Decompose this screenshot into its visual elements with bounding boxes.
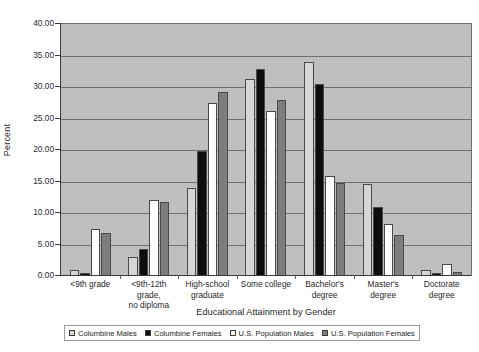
y-axis-title: Percent [2, 100, 12, 180]
bar-chart: Percent 0.005.0010.0015.0020.0025.0030.0… [0, 0, 479, 352]
bar [208, 103, 218, 276]
bar [91, 229, 101, 276]
bar [373, 207, 383, 276]
y-tick-mark [55, 23, 60, 24]
bar [245, 79, 255, 276]
legend-swatch-icon [322, 330, 328, 336]
bar [128, 257, 138, 276]
y-tick-label: 0.00 [18, 270, 54, 280]
bar-group [354, 24, 413, 276]
y-tick-mark [55, 244, 60, 245]
bar [384, 224, 394, 276]
legend-label: Columbine Females [154, 329, 222, 338]
y-tick-label: 25.00 [18, 113, 54, 123]
bar [101, 233, 111, 276]
bar [187, 188, 197, 276]
y-tick-label: 35.00 [18, 50, 54, 60]
y-tick-mark [55, 55, 60, 56]
legend-item[interactable]: U.S. Population Females [322, 329, 415, 338]
y-tick-mark [55, 86, 60, 87]
x-tick-label: Doctorate degree [412, 279, 471, 300]
x-axis-title: Educational Attainment by Gender [61, 307, 471, 317]
legend-label: Columbine Males [78, 329, 137, 338]
bar [160, 202, 170, 276]
y-tick-label: 5.00 [18, 239, 54, 249]
bar-group [178, 24, 237, 276]
bar [266, 111, 276, 276]
legend-label: U.S. Population Males [239, 329, 314, 338]
legend-item[interactable]: U.S. Population Males [230, 329, 314, 338]
y-tick-mark [55, 118, 60, 119]
bar [197, 151, 207, 276]
x-tick-label: Some college [237, 279, 296, 290]
bar [218, 92, 228, 276]
bar [256, 69, 266, 276]
y-tick-mark [55, 181, 60, 182]
x-tick-label: High-school graduate [178, 279, 237, 300]
y-tick-label: 10.00 [18, 207, 54, 217]
bar-group [237, 24, 296, 276]
plot-area [61, 23, 472, 276]
chart-legend: Columbine MalesColumbine FemalesU.S. Pop… [64, 325, 420, 341]
bar-group [412, 24, 471, 276]
bar [277, 100, 287, 276]
y-tick-mark [55, 212, 60, 213]
legend-swatch-icon [230, 330, 236, 336]
bar [149, 200, 159, 276]
x-axis-line [60, 275, 471, 276]
y-tick-mark [55, 149, 60, 150]
legend-label: U.S. Population Females [331, 329, 415, 338]
bar-group [120, 24, 179, 276]
bar [139, 249, 149, 276]
bar [336, 183, 346, 276]
x-tick-label: Bachelor's degree [295, 279, 354, 300]
x-tick-label: Master's degree [354, 279, 413, 300]
legend-item[interactable]: Columbine Males [69, 329, 137, 338]
bar-group [295, 24, 354, 276]
bar [315, 84, 325, 276]
bar [304, 62, 314, 276]
x-axis-tick-labels: <9th grade<9th-12th grade, no diplomaHig… [61, 279, 471, 305]
legend-swatch-icon [69, 330, 75, 336]
legend-item[interactable]: Columbine Females [145, 329, 222, 338]
x-tick-label: <9th grade [61, 279, 120, 290]
bar [363, 184, 373, 276]
y-tick-label: 20.00 [18, 144, 54, 154]
bar [394, 235, 404, 276]
bar [325, 176, 335, 276]
legend-swatch-icon [145, 330, 151, 336]
y-axis-tick-labels: 0.005.0010.0015.0020.0025.0030.0035.0040… [18, 23, 54, 275]
y-tick-label: 40.00 [18, 18, 54, 28]
x-tick-label: <9th-12th grade, no diploma [120, 279, 179, 311]
bar-group [61, 24, 120, 276]
y-tick-label: 15.00 [18, 176, 54, 186]
y-tick-label: 30.00 [18, 81, 54, 91]
